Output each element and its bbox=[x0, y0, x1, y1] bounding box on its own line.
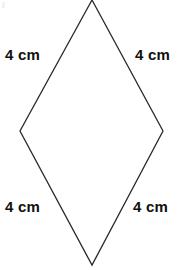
side-label-bottom-right: 4 cm bbox=[133, 199, 168, 215]
side-label-bottom-left: 4 cm bbox=[5, 199, 40, 215]
side-label-top-right: 4 cm bbox=[135, 47, 170, 63]
side-label-top-left: 4 cm bbox=[5, 47, 40, 63]
rhombus-figure: 4 cm 4 cm 4 cm 4 cm bbox=[0, 0, 180, 270]
rhombus-shape-svg bbox=[0, 0, 180, 270]
rhombus-outline bbox=[20, 0, 163, 265]
